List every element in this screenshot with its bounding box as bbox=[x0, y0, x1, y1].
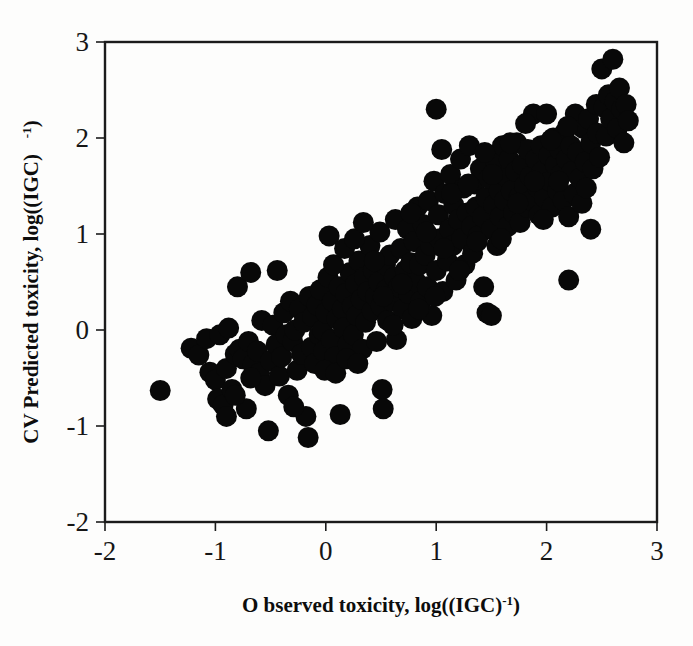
y-axis-ticks: -2-10123 bbox=[67, 27, 106, 537]
data-point bbox=[613, 132, 634, 153]
data-point bbox=[548, 171, 569, 192]
data-point bbox=[500, 132, 521, 153]
data-point bbox=[425, 286, 446, 307]
scatter-plot: -2-10123 -2-10123 O bserved toxicity, lo… bbox=[0, 0, 693, 646]
data-point bbox=[524, 171, 545, 192]
data-point bbox=[240, 368, 261, 389]
data-markers bbox=[150, 49, 639, 448]
data-point bbox=[449, 260, 470, 281]
data-point bbox=[373, 398, 394, 419]
y-axis-title: CV Predicted toxicity, log((IGC) -1) bbox=[19, 120, 43, 443]
x-tick-label: 2 bbox=[540, 536, 554, 566]
figure-container: -2-10123 -2-10123 O bserved toxicity, lo… bbox=[0, 0, 693, 646]
y-tick-label: 3 bbox=[76, 27, 90, 57]
data-point bbox=[515, 113, 536, 134]
data-point bbox=[216, 406, 237, 427]
data-point bbox=[589, 147, 610, 168]
data-point bbox=[225, 385, 246, 406]
data-point bbox=[536, 104, 557, 125]
data-point bbox=[383, 315, 404, 336]
data-point bbox=[576, 177, 597, 198]
x-tick-label: -1 bbox=[204, 536, 227, 566]
data-point bbox=[541, 129, 562, 150]
data-point bbox=[347, 353, 368, 374]
y-tick-label: 1 bbox=[76, 219, 90, 249]
data-point bbox=[283, 396, 304, 417]
data-point bbox=[491, 228, 512, 249]
data-point bbox=[416, 222, 437, 243]
data-point bbox=[431, 139, 452, 160]
data-point bbox=[467, 231, 488, 252]
data-point bbox=[150, 380, 171, 401]
y-tick-label: -1 bbox=[67, 411, 90, 441]
data-point bbox=[474, 142, 495, 163]
data-point bbox=[366, 331, 387, 352]
data-point bbox=[433, 238, 454, 259]
data-point bbox=[473, 276, 494, 297]
data-point bbox=[298, 427, 319, 448]
x-axis-title: O bserved toxicity, log((IGC)-1) bbox=[242, 593, 520, 617]
data-point bbox=[258, 420, 279, 441]
data-point bbox=[507, 193, 528, 214]
data-point bbox=[557, 116, 578, 137]
data-point bbox=[533, 209, 554, 230]
data-point bbox=[364, 250, 385, 271]
y-tick-label: -2 bbox=[67, 507, 90, 537]
data-point bbox=[267, 260, 288, 281]
data-point bbox=[391, 273, 412, 294]
data-point bbox=[408, 298, 429, 319]
data-point bbox=[426, 99, 447, 120]
data-point bbox=[353, 212, 374, 233]
data-point bbox=[373, 286, 394, 307]
y-tick-label: 2 bbox=[76, 123, 90, 153]
x-tick-label: -2 bbox=[94, 536, 117, 566]
data-point bbox=[580, 219, 601, 240]
x-tick-label: 3 bbox=[650, 536, 664, 566]
x-axis-ticks: -2-10123 bbox=[94, 522, 664, 566]
data-point bbox=[482, 164, 503, 185]
data-point bbox=[372, 379, 393, 400]
x-tick-label: 1 bbox=[429, 536, 443, 566]
data-point bbox=[558, 270, 579, 291]
data-point bbox=[458, 174, 479, 195]
data-point bbox=[481, 305, 502, 326]
x-tick-label: 0 bbox=[319, 536, 333, 566]
data-point bbox=[400, 202, 421, 223]
y-tick-label: 0 bbox=[76, 315, 90, 345]
data-point bbox=[618, 110, 639, 131]
data-point bbox=[330, 404, 351, 425]
data-point bbox=[218, 318, 239, 339]
data-point bbox=[240, 262, 261, 283]
data-point bbox=[602, 49, 623, 70]
